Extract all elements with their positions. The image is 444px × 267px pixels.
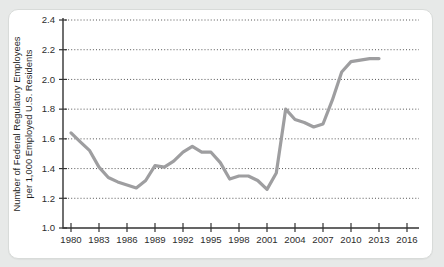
x-tick-label: 2010: [340, 234, 361, 245]
screenshot-stage: 1.01.21.41.61.82.02.22.41980198319861989…: [0, 0, 444, 267]
x-tick-label: 1980: [60, 234, 81, 245]
x-tick-label: 2004: [284, 234, 306, 245]
y-tick-label: 1.0: [42, 222, 55, 233]
data-series: [71, 59, 379, 190]
y-axis-title-line2: per 1,000 Employed U.S. Residents: [23, 49, 34, 198]
x-tick-label: 1998: [228, 234, 249, 245]
y-tick-label: 1.4: [42, 163, 56, 174]
regulatory-employees-line-chart: 1.01.21.41.61.82.02.22.41980198319861989…: [9, 10, 432, 258]
y-tick-label: 2.2: [42, 44, 55, 55]
x-tick-label: 2007: [312, 234, 333, 245]
x-tick-label: 2001: [256, 234, 277, 245]
x-tick-label: 1983: [88, 234, 109, 245]
y-tick-label: 2.4: [42, 14, 56, 25]
y-tick-label: 1.8: [42, 103, 55, 114]
x-tick-label: 1989: [144, 234, 165, 245]
x-tick-label: 1986: [116, 234, 137, 245]
data-line: [71, 59, 379, 190]
y-tick-label: 1.6: [42, 133, 55, 144]
x-tick-label: 1995: [200, 234, 221, 245]
cropped-text-artifact: [183, 0, 233, 4]
x-tick-label: 2013: [368, 234, 389, 245]
y-tick-label: 2.0: [42, 74, 55, 85]
gridlines: [65, 20, 419, 198]
y-axis-title-line1: Number of Federal Regulatory Employees: [11, 36, 22, 211]
x-tick-label: 1992: [172, 234, 193, 245]
y-tick-label: 1.2: [42, 193, 55, 204]
chart-card: 1.01.21.41.61.82.02.22.41980198319861989…: [8, 9, 433, 259]
axis-tick-labels: 1.01.21.41.61.82.02.22.41980198319861989…: [42, 14, 418, 245]
axis-lines: [63, 18, 419, 228]
x-tick-label: 2016: [396, 234, 417, 245]
